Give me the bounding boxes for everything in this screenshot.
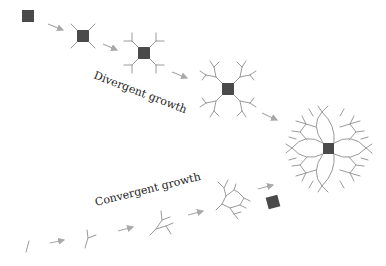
divergent-growth-label: Divergent growth [92,69,189,117]
arrow-icon [188,211,203,215]
convergent-stage-1-segment [26,241,29,252]
arrow-icon [50,240,64,243]
arrow-icon [48,24,63,30]
divergent-stage-2 [71,24,95,48]
divergent-sequence [22,10,372,192]
arrow-icon [118,227,133,231]
convergent-stage-4 [216,180,250,219]
divergent-stage-3 [124,33,164,73]
divergent-stage-4 [200,61,256,117]
divergent-stage-1-square [22,10,34,22]
arrow-icon [258,185,273,189]
convergent-stage-2 [85,230,96,248]
convergent-stage-3 [150,211,173,235]
convergent-stage-5-square [266,195,281,210]
divergent-stage-5-flower [286,106,372,192]
convergent-growth-label: Convergent growth [94,170,202,209]
arrow-icon [262,113,277,120]
arrow-icon [103,44,117,50]
arrow-icon [172,72,187,78]
growth-diagram: Divergent growth Convergent growth [0,0,386,266]
